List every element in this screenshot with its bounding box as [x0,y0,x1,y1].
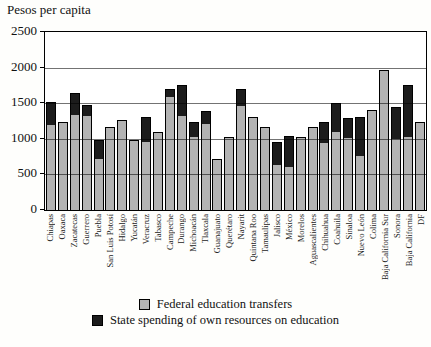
bar-tamaulipas [260,127,270,210]
x-category-label-zacatecas: Zacatecas [69,214,79,248]
x-label-slot: Chihuahua [320,214,330,298]
bar-zacatecas [70,93,80,210]
bar-sonora [391,107,401,210]
legend-label: Federal education transfers [157,297,292,312]
gridline-1000 [45,139,426,140]
x-category-label-sinaloa: Sinaloa [344,214,354,240]
bar-baja-california-sur [379,70,389,210]
y-tick-label: 2000 [0,59,37,75]
x-label-slot: Chiapas [45,214,55,298]
plot-area [44,31,427,211]
x-label-slot: Tlaxcala [200,214,210,298]
y-tick-mark [40,31,44,32]
x-label-slot: México [284,214,294,298]
bar-nuevo-le-n-state-segment [356,118,364,157]
bar-baja-california-state-segment [404,86,412,136]
x-label-slot: Coahuila [332,214,342,298]
bar-m-xico-state-segment [285,137,293,167]
bar-puebla-state-segment [95,141,103,159]
bar-campeche [165,89,175,210]
x-label-slot: Morelos [296,214,306,298]
x-category-label-tlaxcala: Tlaxcala [200,214,210,243]
y-tick-mark [40,173,44,174]
bar-nayarit [236,89,246,210]
x-label-slot: DF [416,214,426,298]
x-label-slot: Campeche [165,214,175,298]
x-label-slot: Querétaro [224,214,234,298]
bar-veracruz [141,117,151,210]
y-tick-label: 1000 [0,130,37,146]
x-category-label-aguascalientes: Aguascalientes [308,214,318,265]
y-tick-label: 2500 [0,23,37,39]
bar-michoac-n-state-segment [190,123,198,136]
bar-michoac-n [189,122,199,210]
x-label-slot: Quintana Roo [248,214,258,298]
x-category-label-m-xico: México [284,214,294,240]
bar-jalisco-state-segment [273,143,281,165]
x-category-label-chihuahua: Chihuahua [320,214,330,251]
y-tick-mark [40,138,44,139]
bar-tabasco [153,132,163,210]
bar-hidalgo [117,120,127,210]
bar-chihuahua [319,122,329,210]
x-label-slot: Yucatán [129,214,139,298]
bar-oaxaca [58,122,68,210]
legend: Federal education transfersState spendin… [0,296,431,328]
x-category-label-oaxaca: Oaxaca [57,214,67,239]
x-label-slot: Sinaloa [344,214,354,298]
x-label-slot: Baja California Sur [380,214,390,298]
x-label-slot: Durango [176,214,186,298]
x-category-label-guanajuato: Guanajuato [212,214,222,253]
x-category-label-tabasco: Tabasco [153,214,163,242]
legend-label: State spending of own resources on educa… [110,313,339,328]
bar-guanajuato [212,159,222,210]
bar-df [415,122,425,210]
bar-sinaloa [343,118,353,210]
x-label-slot: Sonora [392,214,402,298]
x-label-slot: Puebla [93,214,103,298]
gridline-2000 [45,68,426,69]
x-category-label-yucat-n: Yucatán [129,214,139,241]
figure-pesos-per-capita: Pesos per capita 05001000150020002500 Ch… [0,0,431,347]
bar-colima [367,110,377,210]
bar-guerrero [82,105,92,210]
x-category-label-guerrero: Guerrero [81,214,91,245]
x-label-slot: Oaxaca [57,214,67,298]
x-category-label-quintana-roo: Quintana Roo [248,214,258,261]
bar-sonora-state-segment [392,108,400,139]
bar-tlaxcala-state-segment [202,112,210,124]
x-category-label-nayarit: Nayarit [236,214,246,240]
x-category-label-tamaulipas: Tamaulipas [260,214,270,253]
gridline-1500 [45,103,426,104]
x-category-label-campeche: Campeche [165,214,175,250]
x-category-label-san-luis-potos: San Luis Potosí [105,214,115,267]
y-tick-label: 500 [0,165,37,181]
y-tick-label: 0 [0,201,37,217]
x-category-label-sonora: Sonora [392,214,402,238]
x-label-slot: Nayarit [236,214,246,298]
y-tick-mark [40,209,44,210]
bar-zacatecas-state-segment [71,94,79,116]
x-label-slot: Guerrero [81,214,91,298]
x-label-slot: Nuevo León [356,214,366,298]
x-category-label-colima: Colima [368,214,378,239]
x-label-slot: Jalisco [272,214,282,298]
x-category-label-coahuila: Coahuila [332,214,342,245]
x-category-label-michoac-n: Michoacán [188,214,198,252]
bar-sinaloa-state-segment [344,119,352,138]
bar-m-xico [284,136,294,210]
legend-swatch [92,315,103,326]
bar-series [45,32,426,210]
x-category-label-baja-california: Baja California [404,214,414,266]
bar-chiapas-state-segment [47,103,55,125]
legend-item-state-spending-of-own-resources-on-education: State spending of own resources on educa… [92,312,339,328]
bar-chiapas [46,102,56,210]
x-category-label-veracruz: Veracruz [141,214,151,244]
y-tick-mark [40,67,44,68]
x-label-slot: Michoacán [188,214,198,298]
legend-item-federal-education-transfers: Federal education transfers [139,296,292,312]
x-label-slot: Hidalgo [117,214,127,298]
x-category-label-df: DF [416,214,426,225]
bar-chihuahua-state-segment [320,123,328,143]
bar-quintana-roo [248,117,258,210]
